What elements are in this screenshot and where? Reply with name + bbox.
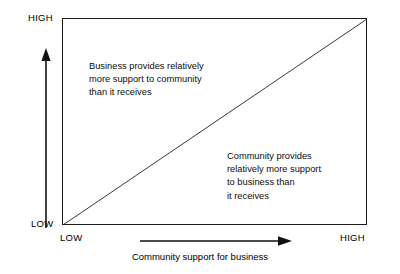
annotation-line: Community provides [227, 150, 321, 163]
annotation-community-provides-more: Community provides relatively more suppo… [227, 150, 321, 203]
annotation-line: than it receives [89, 86, 204, 99]
annotation-line: Business provides relatively [89, 60, 204, 73]
annotation-line: relatively more support [227, 163, 321, 176]
annotation-business-provides-more: Business provides relatively more suppor… [89, 60, 204, 100]
annotation-line: to business than [227, 176, 321, 189]
plot-frame [62, 18, 367, 225]
y-axis-high-label: HIGH [28, 13, 53, 23]
support-matrix-figure: HIGH LOW LOW HIGH Business support for c… [0, 0, 400, 274]
annotation-line: it receives [227, 190, 321, 203]
annotation-line: more support to community [89, 73, 204, 86]
y-axis-low-label: LOW [31, 219, 54, 229]
right-arrow-icon [140, 233, 292, 249]
x-axis-high-label: HIGH [340, 233, 365, 243]
x-axis-title: Community support for business [0, 252, 400, 262]
up-arrow-icon [36, 48, 56, 228]
x-axis-low-label: LOW [60, 233, 83, 243]
